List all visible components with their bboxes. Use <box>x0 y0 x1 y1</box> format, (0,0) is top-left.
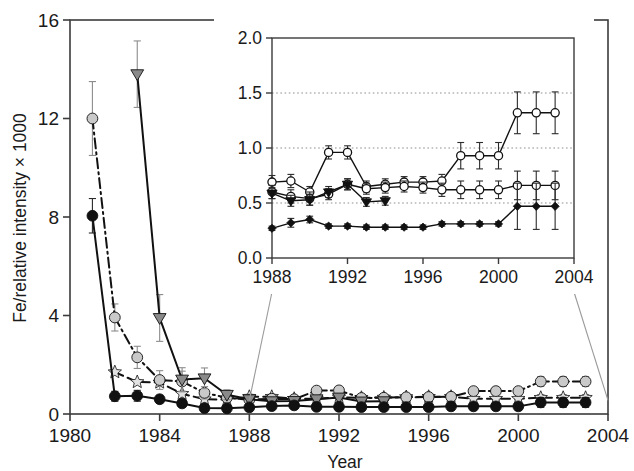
svg-text:16: 16 <box>38 10 59 31</box>
svg-text:2000: 2000 <box>497 425 539 446</box>
svg-text:0.5: 0.5 <box>238 193 262 213</box>
svg-text:1988: 1988 <box>228 425 270 446</box>
svg-text:2000: 2000 <box>479 267 518 287</box>
svg-text:8: 8 <box>48 207 59 228</box>
svg-text:1992: 1992 <box>328 267 367 287</box>
svg-text:12: 12 <box>38 108 59 129</box>
svg-text:1988: 1988 <box>253 267 292 287</box>
inset-background <box>214 16 594 294</box>
y-axis-title: Fe/relative intensity × 1000 <box>10 113 30 323</box>
svg-text:2004: 2004 <box>587 425 630 446</box>
inset-connector-lines <box>249 292 608 400</box>
svg-text:4: 4 <box>48 305 59 326</box>
svg-text:2004: 2004 <box>555 267 594 287</box>
svg-text:1984: 1984 <box>139 425 182 446</box>
svg-text:1.5: 1.5 <box>238 83 262 103</box>
svg-text:1996: 1996 <box>404 267 443 287</box>
x-axis-title: Year <box>327 452 363 471</box>
svg-text:1992: 1992 <box>318 425 360 446</box>
svg-text:1980: 1980 <box>49 425 91 446</box>
svg-text:0: 0 <box>48 404 59 425</box>
svg-text:0.0: 0.0 <box>238 248 263 268</box>
figure-panel: 04812161980198419881992199620002004 0.00… <box>0 0 634 471</box>
svg-text:1996: 1996 <box>408 425 450 446</box>
chart-canvas: 04812161980198419881992199620002004 0.00… <box>0 0 634 471</box>
svg-text:2.0: 2.0 <box>238 28 263 48</box>
svg-text:1.0: 1.0 <box>238 138 263 158</box>
